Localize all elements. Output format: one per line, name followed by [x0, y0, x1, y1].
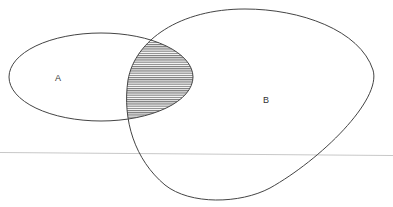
set-b-label: B [263, 95, 269, 105]
set-a-label: A [55, 73, 61, 83]
venn-diagram: A B [0, 0, 393, 207]
baseline-line [0, 153, 393, 156]
intersection-hatch [127, 9, 374, 200]
